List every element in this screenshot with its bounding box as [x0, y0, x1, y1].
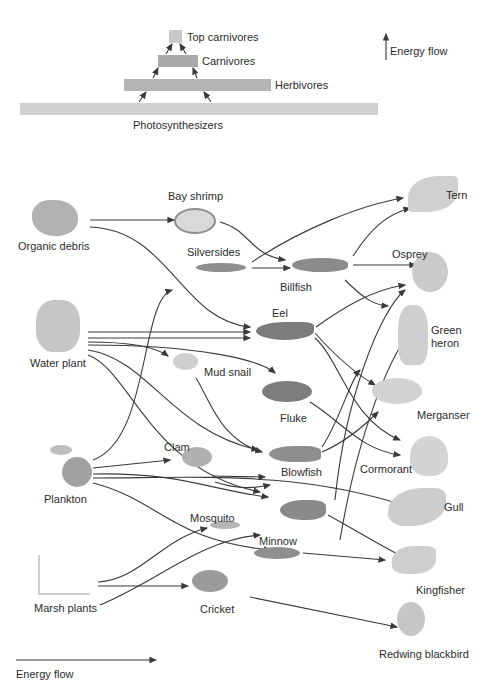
label-green: Green — [431, 324, 462, 336]
label-tern: Tern — [446, 189, 467, 201]
label-clam: Clam — [164, 441, 190, 453]
kingfisher-icon — [392, 546, 436, 574]
label-osprey: Osprey — [392, 248, 427, 260]
carnivore-fish-icon — [280, 500, 326, 520]
redwing-blackbird-icon — [397, 602, 425, 636]
green-heron-icon — [398, 305, 428, 365]
organic-debris-icon — [32, 200, 78, 236]
cormorant-icon — [410, 436, 448, 476]
label-fluke: Fluke — [280, 412, 307, 424]
label-cormorant: Cormorant — [360, 463, 412, 475]
label-billfish: Billfish — [280, 281, 312, 293]
label-kingfisher: Kingfisher — [416, 584, 465, 596]
label-merganser: Merganser — [417, 409, 470, 421]
plankton-shrimp-icon — [50, 445, 72, 455]
mud-snail-icon — [173, 353, 198, 370]
bay-shrimp-icon — [174, 208, 216, 234]
label-redwing-blackbird: Redwing blackbird — [379, 648, 469, 660]
label-marsh-plants: Marsh plants — [34, 602, 97, 614]
label-mud-snail: Mud snail — [204, 366, 251, 378]
fluke-icon — [262, 381, 312, 402]
billfish-icon — [292, 258, 348, 272]
silversides-icon — [196, 263, 246, 272]
label-eel: Eel — [272, 307, 288, 319]
minnow-icon — [254, 547, 300, 559]
label-silversides: Silversides — [187, 246, 240, 258]
water-plant-icon — [36, 300, 80, 352]
marsh-plants-icon — [38, 555, 90, 595]
label-water-plant: Water plant — [30, 357, 86, 369]
cricket-icon — [192, 570, 228, 592]
label-heron: heron — [431, 337, 459, 349]
merganser-icon — [372, 378, 422, 404]
blowfish-icon — [269, 446, 321, 462]
plankton-icon — [62, 457, 92, 487]
label-mosquito: Mosquito — [190, 512, 235, 524]
label-cricket: Cricket — [200, 603, 234, 615]
web-energy-flow-legend: Energy flow — [16, 668, 73, 680]
label-minnow: Minnow — [259, 535, 297, 547]
label-plankton: Plankton — [44, 493, 87, 505]
label-organic-debris: Organic debris — [18, 240, 90, 252]
eel-icon — [256, 322, 314, 340]
label-gull: Gull — [444, 501, 464, 513]
label-bay-shrimp: Bay shrimp — [168, 190, 223, 202]
label-blowfish: Blowfish — [281, 466, 322, 478]
